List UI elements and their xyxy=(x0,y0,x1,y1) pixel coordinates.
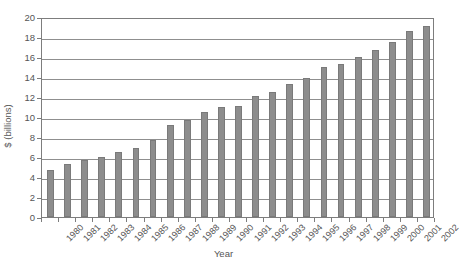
y-tick-label: 4 xyxy=(9,173,35,183)
x-tick-mark xyxy=(366,218,367,222)
bar xyxy=(201,112,208,217)
x-tick-label: 1981 xyxy=(81,223,102,244)
x-tick-mark xyxy=(212,218,213,222)
x-tick-label: 1985 xyxy=(150,223,171,244)
bar xyxy=(252,96,259,217)
x-tick-mark xyxy=(229,218,230,222)
x-tick-mark xyxy=(126,218,127,222)
x-tick-label: 1990 xyxy=(235,223,256,244)
x-tick-mark xyxy=(280,218,281,222)
x-tick-mark xyxy=(400,218,401,222)
gridline xyxy=(42,39,433,40)
x-tick-mark xyxy=(434,218,435,222)
bar xyxy=(64,164,71,217)
y-tick-label: 12 xyxy=(9,93,35,103)
x-tick-label: 1995 xyxy=(321,223,342,244)
x-tick-label: 2002 xyxy=(440,223,461,244)
y-tick-label: 6 xyxy=(9,153,35,163)
bar xyxy=(218,107,225,217)
x-tick-mark xyxy=(297,218,298,222)
x-tick-mark xyxy=(263,218,264,222)
y-tick-label: 0 xyxy=(9,213,35,223)
y-tick-label: 14 xyxy=(9,73,35,83)
y-tick-label: 20 xyxy=(9,13,35,23)
x-tick-mark xyxy=(161,218,162,222)
bar xyxy=(338,64,345,218)
bar xyxy=(150,140,157,217)
bar xyxy=(321,67,328,217)
x-tick-label: 1993 xyxy=(287,223,308,244)
x-tick-mark xyxy=(331,218,332,222)
y-tick-label: 10 xyxy=(9,113,35,123)
x-tick-label: 1992 xyxy=(269,223,290,244)
bar xyxy=(423,26,430,217)
x-tick-mark xyxy=(417,218,418,222)
y-tick-label: 2 xyxy=(9,193,35,203)
bar xyxy=(286,84,293,217)
x-tick-mark xyxy=(58,218,59,222)
x-tick-mark xyxy=(109,218,110,222)
x-tick-label: 1980 xyxy=(64,223,85,244)
x-tick-label: 1991 xyxy=(252,223,273,244)
bar xyxy=(167,125,174,217)
x-tick-mark xyxy=(349,218,350,222)
bar xyxy=(115,152,122,217)
bar xyxy=(235,106,242,217)
x-axis-title: Year xyxy=(0,248,447,259)
x-tick-label: 1982 xyxy=(99,223,120,244)
x-tick-mark xyxy=(41,218,42,222)
x-tick-label: 1997 xyxy=(355,223,376,244)
y-tick-label: 18 xyxy=(9,33,35,43)
x-tick-mark xyxy=(144,218,145,222)
x-tick-mark xyxy=(383,218,384,222)
x-tick-mark xyxy=(314,218,315,222)
x-tick-mark xyxy=(195,218,196,222)
plot-area xyxy=(41,18,434,218)
x-tick-label: 1996 xyxy=(338,223,359,244)
bar xyxy=(355,57,362,218)
x-tick-mark xyxy=(92,218,93,222)
x-tick-label: 1983 xyxy=(116,223,137,244)
bar xyxy=(372,50,379,218)
bar xyxy=(47,170,54,217)
bar xyxy=(184,120,191,217)
y-tick-label: 16 xyxy=(9,53,35,63)
bar xyxy=(81,160,88,217)
bar xyxy=(133,148,140,217)
bar xyxy=(389,42,396,217)
bar xyxy=(98,157,105,217)
y-tick-label: 8 xyxy=(9,133,35,143)
x-tick-label: 1984 xyxy=(133,223,154,244)
x-tick-mark xyxy=(75,218,76,222)
x-tick-mark xyxy=(246,218,247,222)
bar xyxy=(303,78,310,217)
bar xyxy=(406,31,413,217)
bar xyxy=(269,92,276,217)
x-tick-mark xyxy=(178,218,179,222)
x-tick-label: 1994 xyxy=(304,223,325,244)
